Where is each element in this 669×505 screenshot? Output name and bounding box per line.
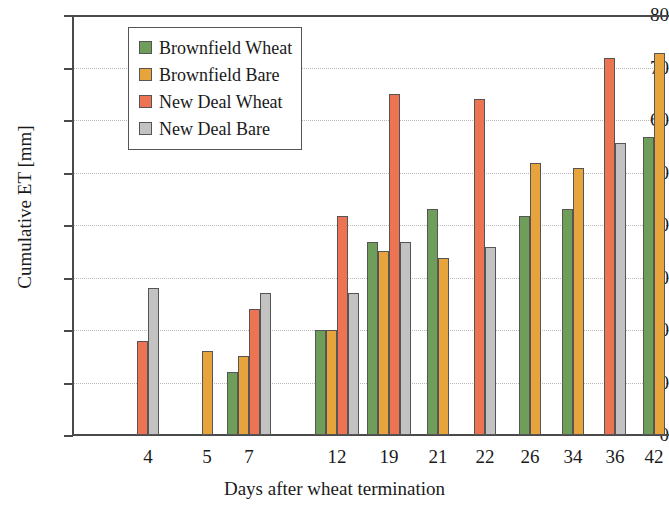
legend-label: Brownfield Wheat <box>159 39 292 57</box>
bar-new-deal-wheat-day-7 <box>249 309 260 435</box>
legend-item-brownfield-wheat: Brownfield Wheat <box>139 34 293 61</box>
bar-new-deal-wheat-day-4 <box>137 341 148 436</box>
legend-swatch-icon <box>139 68 152 81</box>
legend-label: New Deal Wheat <box>159 93 283 111</box>
y-axis-title: Cumulative ET [mm] <box>14 77 36 337</box>
x-tick-label-19: 19 <box>366 446 412 468</box>
bar-new-deal-bare-day-19 <box>400 242 411 435</box>
x-axis-title: Days after wheat termination <box>0 478 669 500</box>
bar-brownfield-bare-day-21 <box>438 258 449 435</box>
cumulative-et-bar-chart: 01020304050607080 Cumulative ET [mm] 457… <box>0 0 669 505</box>
x-tick-label-4: 4 <box>125 446 171 468</box>
bar-brownfield-wheat-day-26 <box>519 216 530 435</box>
legend-swatch-icon <box>139 122 152 135</box>
x-tick-label-7: 7 <box>226 446 272 468</box>
legend-item-new-deal-bare: New Deal Bare <box>139 115 293 142</box>
bar-brownfield-wheat-day-34 <box>562 209 573 435</box>
bar-brownfield-bare-day-7 <box>238 356 249 435</box>
bar-new-deal-bare-day-4 <box>148 288 159 435</box>
x-tick-label-21: 21 <box>415 446 461 468</box>
legend-swatch-icon <box>139 95 152 108</box>
x-tick-label-42: 42 <box>631 446 669 468</box>
bar-new-deal-bare-day-36 <box>615 143 626 435</box>
legend-label: New Deal Bare <box>159 120 270 138</box>
bar-brownfield-bare-day-34 <box>573 168 584 435</box>
bar-brownfield-wheat-day-12 <box>315 330 326 435</box>
x-tick-label-34: 34 <box>550 446 596 468</box>
bar-new-deal-wheat-day-22 <box>474 99 485 435</box>
bar-brownfield-bare-day-42 <box>654 53 665 435</box>
bar-new-deal-bare-day-7 <box>260 293 271 435</box>
bar-brownfield-bare-day-5 <box>202 351 213 435</box>
legend-item-brownfield-bare: Brownfield Bare <box>139 61 293 88</box>
bar-brownfield-wheat-day-7 <box>227 372 238 435</box>
bar-new-deal-wheat-day-12 <box>337 216 348 435</box>
bar-brownfield-wheat-day-19 <box>367 242 378 435</box>
bar-brownfield-bare-day-26 <box>530 163 541 435</box>
bar-brownfield-wheat-day-42 <box>643 137 654 435</box>
x-tick-label-12: 12 <box>314 446 360 468</box>
legend-item-new-deal-wheat: New Deal Wheat <box>139 88 293 115</box>
x-tick-label-22: 22 <box>462 446 508 468</box>
bar-brownfield-wheat-day-21 <box>427 209 438 435</box>
bar-new-deal-bare-day-12 <box>348 293 359 435</box>
bar-new-deal-wheat-day-36 <box>604 58 615 435</box>
bar-brownfield-bare-day-19 <box>378 251 389 435</box>
x-tick-label-5: 5 <box>184 446 230 468</box>
legend: Brownfield WheatBrownfield BareNew Deal … <box>128 27 302 150</box>
x-tick-label-26: 26 <box>507 446 553 468</box>
legend-label: Brownfield Bare <box>159 66 279 84</box>
bar-new-deal-wheat-day-19 <box>389 94 400 435</box>
bar-new-deal-bare-day-22 <box>485 247 496 435</box>
bar-brownfield-bare-day-12 <box>326 330 337 435</box>
legend-swatch-icon <box>139 41 152 54</box>
